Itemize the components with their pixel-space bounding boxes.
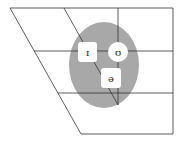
symbol-schwa: ə (101, 68, 121, 88)
svg-text:ə: ə (108, 73, 114, 84)
vowel-region-ellipse (69, 22, 139, 108)
svg-text:ɪ: ɪ (86, 47, 89, 58)
symbol-upsilon: ʊ (108, 42, 128, 62)
svg-text:ʊ: ʊ (115, 47, 121, 58)
symbol-ih: ɪ (78, 42, 97, 62)
vowel-chart: ɪ ʊ ə (0, 0, 183, 144)
